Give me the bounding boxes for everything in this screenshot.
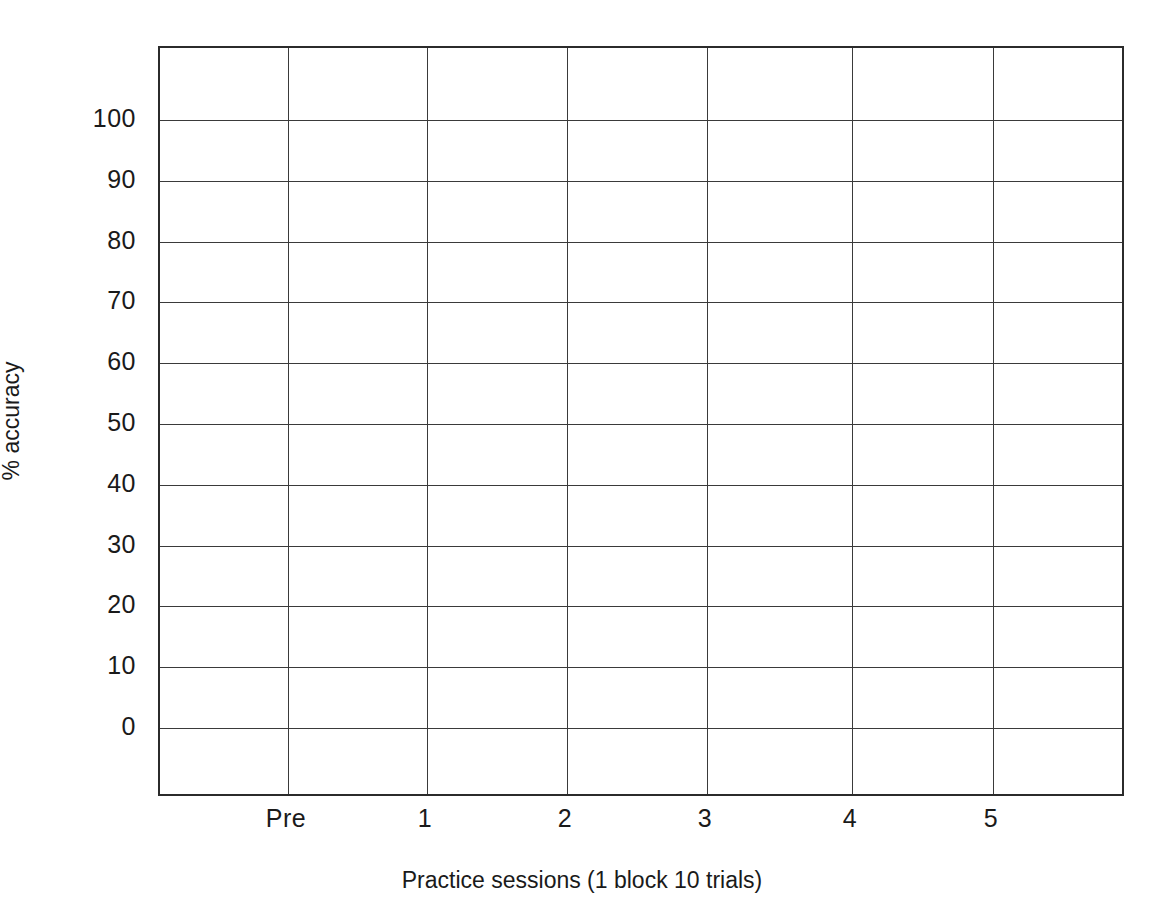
y-axis-tick-label: 50 — [107, 410, 136, 435]
y-axis-tick-label: 10 — [107, 653, 136, 678]
gridline-horizontal — [160, 667, 1122, 668]
gridline-vertical — [288, 48, 289, 794]
y-axis-title: % accuracy — [0, 271, 23, 571]
gridline-vertical — [993, 48, 994, 794]
x-axis-tick-label: 5 — [911, 806, 1071, 831]
gridline-vertical — [567, 48, 568, 794]
y-axis-tick-label: 40 — [107, 470, 136, 495]
x-axis-tick-label: 4 — [770, 806, 930, 831]
gridline-horizontal — [160, 606, 1122, 607]
plot-area — [158, 46, 1124, 796]
gridline-horizontal — [160, 302, 1122, 303]
gridline-horizontal — [160, 424, 1122, 425]
gridline-horizontal — [160, 728, 1122, 729]
gridline-horizontal — [160, 120, 1122, 121]
gridline-horizontal — [160, 181, 1122, 182]
gridline-horizontal — [160, 546, 1122, 547]
y-axis-tick-label: 80 — [107, 227, 136, 252]
y-axis-tick-label: 20 — [107, 592, 136, 617]
x-axis-tick-label: Pre — [206, 806, 366, 831]
y-axis-tick-label: 90 — [107, 166, 136, 191]
y-axis-tick-label: 0 — [122, 714, 136, 739]
gridline-horizontal — [160, 485, 1122, 486]
gridline-vertical — [852, 48, 853, 794]
y-axis-tick-label: 100 — [93, 106, 136, 131]
gridline-horizontal — [160, 242, 1122, 243]
gridline-horizontal — [160, 363, 1122, 364]
gridline-vertical — [707, 48, 708, 794]
chart-figure: 1009080706050403020100 % accuracy Pre123… — [0, 0, 1164, 921]
x-axis-title: Practice sessions (1 block 10 trials) — [0, 869, 1164, 892]
gridline-vertical — [427, 48, 428, 794]
x-axis-tick-label: 1 — [345, 806, 505, 831]
y-axis-tick-label: 70 — [107, 288, 136, 313]
y-axis-tick-label: 30 — [107, 531, 136, 556]
x-axis-tick-label: 2 — [485, 806, 645, 831]
y-axis-tick-label: 60 — [107, 349, 136, 374]
x-axis-tick-label: 3 — [625, 806, 785, 831]
